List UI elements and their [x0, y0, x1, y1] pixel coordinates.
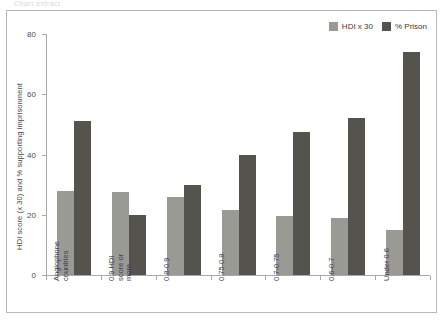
x-axis-line	[46, 275, 430, 276]
x-category-label: 0.9 HDI score or more	[105, 281, 157, 320]
bar-prison	[348, 118, 365, 275]
x-category-label: Under 0.6	[380, 281, 432, 320]
x-category-label: 0.8-0.9	[160, 281, 212, 320]
x-category-label: 0.6-0.7	[325, 281, 377, 320]
x-category-label-text: 0.75-0.8	[218, 235, 227, 281]
plot-area: 020406080	[46, 34, 430, 276]
bar-prison	[239, 155, 256, 276]
x-category-label-text: Anglophone countries	[53, 235, 70, 281]
x-tick	[430, 276, 431, 280]
x-category-label-text: 0.9 HDI score or more	[108, 235, 134, 281]
bar-prison	[403, 52, 420, 275]
x-tick	[320, 276, 321, 280]
legend-item-hdi: HDI x 30	[329, 22, 373, 31]
x-tick	[375, 276, 376, 280]
x-category-label: 0.75-0.8	[215, 281, 267, 320]
y-tick: 60	[42, 94, 46, 95]
y-tick-label: 20	[27, 210, 36, 219]
legend-label-hdi: HDI x 30	[342, 22, 373, 31]
y-tick: 80	[42, 34, 46, 35]
legend-item-prison: % Prison	[382, 22, 427, 31]
x-category-label: 0.7-0.75	[270, 281, 322, 320]
y-tick-label: 80	[27, 30, 36, 39]
legend-swatch-prison	[382, 22, 391, 31]
y-axis-title-text: HDI score (x 30) and % supporting impris…	[15, 83, 24, 250]
x-tick	[101, 276, 102, 280]
y-tick-label: 0	[32, 271, 36, 280]
x-tick	[265, 276, 266, 280]
x-category-label-text: 0.8-0.9	[163, 235, 172, 281]
chart-frame: HDI x 30 % Prison HDI score (x 30) and %…	[6, 10, 437, 313]
x-tick	[211, 276, 212, 280]
y-axis-title: HDI score (x 30) and % supporting impris…	[12, 66, 26, 266]
legend-label-prison: % Prison	[395, 22, 427, 31]
legend-swatch-hdi	[329, 22, 338, 31]
x-category-label: Anglophone countries	[50, 281, 102, 320]
y-tick-label: 40	[27, 150, 36, 159]
bar-prison	[293, 132, 310, 275]
top-caption: Chart extract	[14, 0, 134, 7]
bar-prison	[74, 121, 91, 275]
bar-prison	[184, 185, 201, 275]
chart-legend: HDI x 30 % Prison	[329, 20, 427, 32]
chart-page: Chart extract HDI x 30 % Prison HDI scor…	[0, 0, 443, 320]
y-tick-label: 60	[27, 90, 36, 99]
x-tick	[46, 276, 47, 280]
x-category-label-text: 0.7-0.75	[273, 235, 282, 281]
x-tick	[156, 276, 157, 280]
x-category-label-text: 0.6-0.7	[328, 235, 337, 281]
x-category-label-text: Under 0.6	[383, 235, 392, 281]
